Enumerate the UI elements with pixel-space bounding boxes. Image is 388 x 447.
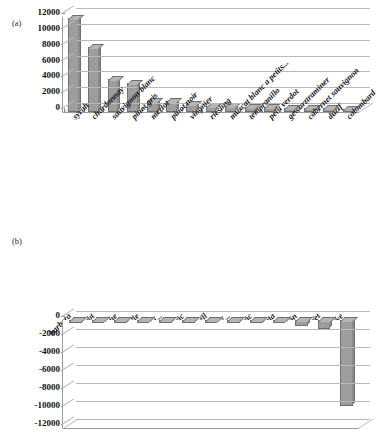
x-axis-category-label: syrah <box>70 100 91 121</box>
y-axis-tick-label: -6000 <box>39 365 60 374</box>
bar-side-face <box>103 318 106 323</box>
bar <box>227 320 240 323</box>
y-axis-tick-label: 0 <box>56 311 61 320</box>
bar <box>159 320 172 323</box>
x-axis-tick <box>177 316 178 320</box>
bar <box>318 320 331 329</box>
bar <box>182 320 195 323</box>
bar <box>273 320 286 323</box>
bar-side-face <box>284 318 287 323</box>
bar <box>340 320 353 406</box>
bar-side-face <box>307 318 310 325</box>
x-axis-tick <box>87 316 88 320</box>
bar <box>295 320 308 326</box>
panel-a-x-axis-labels: syrahchardonnaysauvignon blancpinot gris… <box>0 0 388 215</box>
bar-side-face <box>239 318 242 323</box>
bar-side-face <box>171 318 174 323</box>
gridline <box>76 347 370 348</box>
x-axis-tick <box>290 316 291 320</box>
bar <box>205 320 218 323</box>
y-axis-tick-label: -12000 <box>35 419 61 428</box>
y-axis-tick-label: -8000 <box>39 383 60 392</box>
panel-b-bars <box>62 320 370 428</box>
x-axis-tick <box>335 316 336 320</box>
y-axis-tick-label: -2000 <box>39 329 60 338</box>
x-axis-tick <box>222 316 223 320</box>
bar <box>250 320 263 323</box>
figure-two-panel-bar-charts: { "figure": { "panel_a_tag": "(a)", "pan… <box>0 0 388 447</box>
bar-side-face <box>216 318 219 323</box>
bar <box>92 320 105 323</box>
bar <box>137 320 150 323</box>
x-axis-tick <box>154 316 155 320</box>
x-axis-tick <box>245 316 246 320</box>
bar-side-face <box>262 318 265 323</box>
x-axis-tick <box>313 316 314 320</box>
x-axis-tick <box>132 316 133 320</box>
bar <box>114 320 127 323</box>
y-axis-tick-label: -4000 <box>39 347 60 356</box>
x-axis-tick <box>109 316 110 320</box>
bar-side-face <box>126 318 129 323</box>
panel-b: (b) barberacotmarsannemuscadellemuscat a… <box>0 215 388 447</box>
bar-side-face <box>352 318 355 405</box>
bar-side-face <box>194 318 197 323</box>
gridline <box>76 365 370 366</box>
y-axis-tick-label: -10000 <box>35 401 61 410</box>
gridline <box>76 383 370 384</box>
x-axis-category-label: colombard <box>344 88 377 121</box>
gridline <box>76 401 370 402</box>
panel-a: (a) 020004000600080001000012000 syrahcha… <box>0 0 388 215</box>
x-axis-tick <box>64 316 65 320</box>
x-axis-tick <box>268 316 269 320</box>
plot-floor <box>62 419 374 429</box>
panel-b-y-axis: 0-2000-4000-6000-8000-10000-12000 <box>8 315 60 433</box>
gridline <box>76 311 370 312</box>
bar-side-face <box>329 318 332 328</box>
gridline <box>76 329 370 330</box>
bar <box>69 320 82 323</box>
x-axis-tick <box>200 316 201 320</box>
panel-b-plot-area <box>62 320 370 428</box>
bar-side-face <box>81 318 84 323</box>
bar-side-face <box>148 318 151 323</box>
